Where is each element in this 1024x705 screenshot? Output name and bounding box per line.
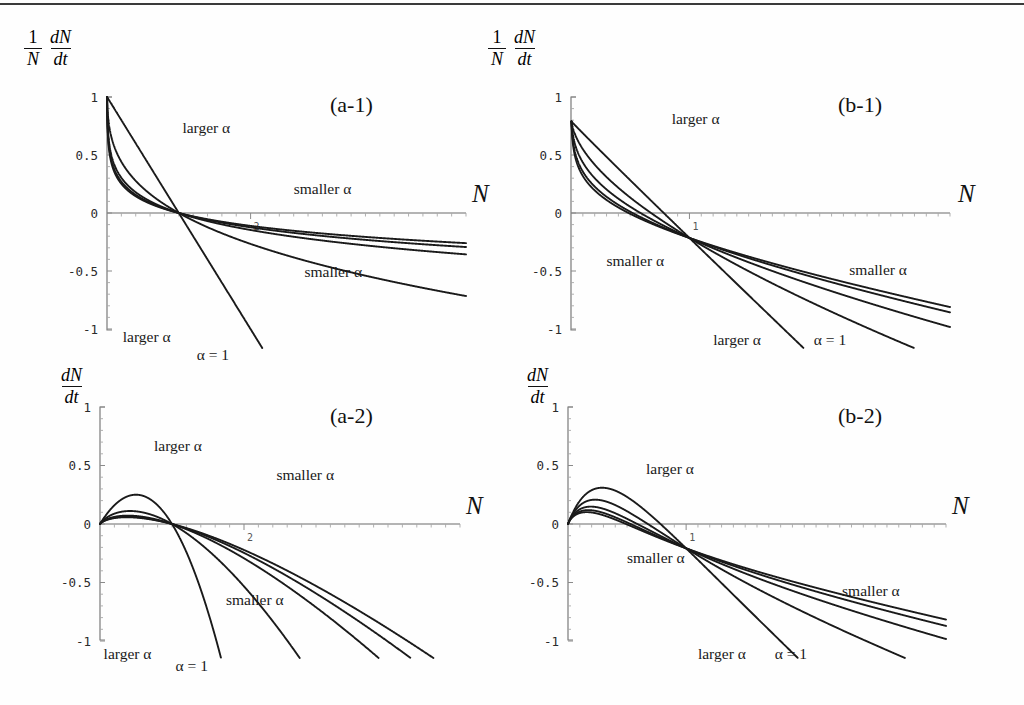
annotation-a-2-0: larger α (154, 438, 202, 454)
annotation-b-2-2: smaller α (842, 583, 900, 599)
y-tick-label-b-2: 1 (551, 400, 559, 415)
annotation-b-2-0: larger α (646, 461, 694, 477)
annotation-b-1-1: smaller α (607, 253, 665, 269)
annotation-a-1-0: larger α (182, 120, 230, 136)
annotation-b-2-4: α = 1 (775, 646, 807, 662)
annotation-a-2-2: smaller α (226, 592, 284, 608)
y-tick-label-b-2: 0 (551, 517, 559, 532)
annotation-b-1-0: larger α (672, 111, 720, 127)
figure-page: 1 N dN dt (a-1) N -1-0.500.512 1 N dN dt… (0, 0, 1024, 705)
annotation-b-1-4: α = 1 (814, 332, 846, 348)
annotation-a-2-3: larger α (104, 646, 152, 662)
annotation-a-1-2: smaller α (304, 264, 362, 280)
curve-b-2-series-4 (568, 512, 946, 619)
annotation-b-2-1: smaller α (627, 550, 685, 566)
annotation-a-1-4: α = 1 (197, 347, 229, 363)
annotation-b-1-3: larger α (713, 332, 761, 348)
y-tick-label-b-2: -1 (544, 634, 559, 649)
plot-area-b-2: -1-0.500.511 (0, 0, 1024, 705)
annotation-a-1-3: larger α (123, 329, 171, 345)
annotation-a-1-1: smaller α (294, 181, 352, 197)
x-tick-label-b-2: 1 (689, 532, 695, 543)
curve-b-2-series-1 (568, 500, 905, 658)
annotation-b-2-3: larger α (698, 646, 746, 662)
annotation-a-2-4: α = 1 (176, 658, 208, 674)
annotation-b-1-2: smaller α (849, 262, 907, 278)
annotation-a-2-1: smaller α (276, 467, 334, 483)
y-tick-label-b-2: -0.5 (529, 575, 559, 590)
y-tick-label-b-2: 0.5 (536, 458, 559, 473)
